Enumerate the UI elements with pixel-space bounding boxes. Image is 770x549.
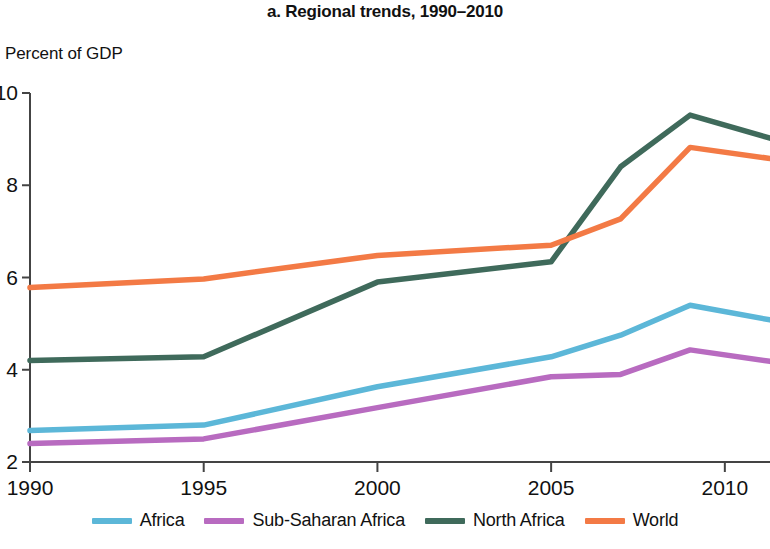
- series-line: [30, 147, 770, 287]
- x-tick-label: 2010: [701, 476, 748, 499]
- legend-swatch-icon: [585, 518, 625, 524]
- y-tick-label: 10: [0, 81, 18, 104]
- y-tick-label: 6: [6, 266, 18, 289]
- legend-swatch-icon: [92, 518, 132, 524]
- legend-label: World: [633, 510, 679, 531]
- legend-swatch-icon: [204, 518, 244, 524]
- y-axis: 246810: [0, 81, 30, 473]
- y-tick-label: 8: [6, 173, 18, 196]
- legend-item[interactable]: North Africa: [425, 510, 565, 531]
- legend-label: North Africa: [473, 510, 565, 531]
- legend-label: Sub-Saharan Africa: [252, 510, 405, 531]
- legend-item[interactable]: World: [585, 510, 679, 531]
- data-series-group: [30, 115, 770, 444]
- chart-legend: AfricaSub-Saharan AfricaNorth AfricaWorl…: [0, 510, 770, 531]
- x-axis: 19901995200020052010: [7, 462, 770, 499]
- y-tick-label: 4: [6, 358, 18, 381]
- x-tick-label: 1990: [7, 476, 54, 499]
- legend-item[interactable]: Africa: [92, 510, 185, 531]
- y-tick-label: 2: [6, 450, 18, 473]
- series-line: [30, 305, 770, 430]
- line-chart-plot: 246810 19901995200020052010: [0, 0, 770, 549]
- x-tick-label: 2000: [354, 476, 401, 499]
- legend-swatch-icon: [425, 518, 465, 524]
- legend-label: Africa: [140, 510, 185, 531]
- x-tick-label: 1995: [180, 476, 227, 499]
- series-line: [30, 115, 770, 360]
- x-tick-label: 2005: [528, 476, 575, 499]
- legend-item[interactable]: Sub-Saharan Africa: [204, 510, 405, 531]
- chart-container: a. Regional trends, 1990–2010 Percent of…: [0, 0, 770, 549]
